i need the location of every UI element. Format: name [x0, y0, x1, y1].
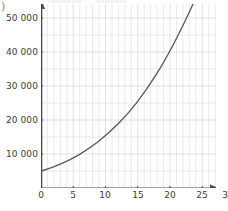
chart-figure: ) — [0, 0, 228, 211]
x-tick-label-25: 25 — [196, 191, 207, 200]
x-tick-label-10: 10 — [99, 191, 110, 200]
x-tick-label-15: 15 — [132, 191, 143, 200]
x-tick-label-5: 5 — [70, 191, 76, 200]
x-tick-label-0: 0 — [38, 191, 44, 200]
x-axis-labels: 0 5 10 15 20 25 3 — [0, 0, 228, 211]
x-tick-label-20: 20 — [164, 191, 175, 200]
x-tick-label-clipped: 3 — [222, 191, 228, 200]
